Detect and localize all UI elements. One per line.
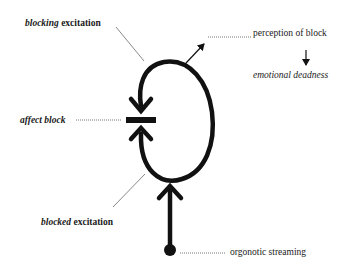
label-blocked-excitation: blocked excitation [41,216,113,228]
label-orgonotic-streaming: orgonotic streaming [230,246,306,258]
label-blocking-excitation: blocking excitation [25,17,101,29]
diagram-canvas [0,0,360,272]
label-blocked-italic: blocked [41,217,71,227]
label-blocking-italic: blocking [25,18,59,28]
source-dot-icon [164,244,176,256]
leader-blocked [113,174,145,207]
leader-blocking [116,27,144,61]
label-blocked-rest: excitation [71,217,113,227]
label-perception-of-block: perception of block [253,27,327,39]
perception-arrow-icon [186,44,204,63]
affect-block-bar [126,117,156,123]
label-affect-block: affect block [20,114,65,126]
label-blocking-rest: excitation [59,18,101,28]
label-emotional-deadness: emotional deadness [253,69,328,81]
